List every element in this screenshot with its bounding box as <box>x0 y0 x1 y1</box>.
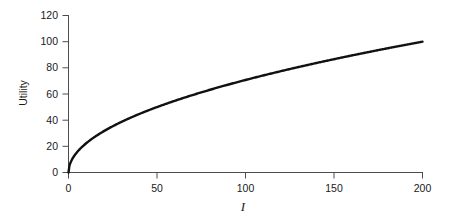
x-axis-title: I <box>240 199 246 214</box>
y-tick-label-40: 40 <box>46 114 58 126</box>
utility-curve-chart: 0 20 40 60 80 100 120 0 50 100 150 200 U… <box>0 0 454 219</box>
chart-figure: 0 20 40 60 80 100 120 0 50 100 150 200 U… <box>0 0 454 219</box>
y-tick-label-60: 60 <box>46 88 58 100</box>
y-tick-label-80: 80 <box>46 61 58 73</box>
x-tick-label-200: 200 <box>414 182 432 194</box>
x-tick-label-50: 50 <box>151 182 163 194</box>
x-tick-label-100: 100 <box>237 182 255 194</box>
y-axis-title: Utility <box>17 79 29 105</box>
y-tick-label-0: 0 <box>52 166 58 178</box>
utility-curve-line <box>69 42 423 173</box>
x-tick-label-150: 150 <box>325 182 343 194</box>
y-tick-label-20: 20 <box>46 140 58 152</box>
x-tick-label-0: 0 <box>66 182 72 194</box>
y-tick-label-120: 120 <box>40 9 58 21</box>
y-tick-label-100: 100 <box>40 35 58 47</box>
